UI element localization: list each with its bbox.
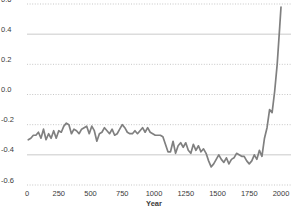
temperature-anomaly-chart: 0.60.40.20.0-0.2-0.4-0.60250500750100012… [0, 0, 292, 207]
x-tick-label-2: 500 [84, 189, 97, 198]
y-tick-label-6: -0.6 [1, 176, 14, 185]
x-axis-title: Year [146, 199, 162, 207]
gridlines [27, 4, 291, 185]
x-tick-label-6: 1500 [209, 189, 226, 198]
x-tick-label-0: 0 [25, 189, 29, 198]
y-tick-label-2: 0.2 [1, 55, 11, 64]
y-tick-label-3: 0.0 [1, 85, 11, 94]
chart-canvas: 0.60.40.20.0-0.2-0.4-0.60250500750100012… [0, 0, 292, 207]
y-tick-label-0: 0.6 [1, 0, 11, 4]
y-axis-tick-labels: 0.60.40.20.0-0.2-0.4-0.6 [1, 0, 14, 185]
x-tick-label-1: 250 [52, 189, 65, 198]
y-tick-label-5: -0.4 [1, 145, 14, 154]
temperature-series-line [28, 7, 281, 167]
y-tick-label-1: 0.4 [1, 25, 11, 34]
x-tick-label-5: 1250 [177, 189, 194, 198]
x-tick-label-3: 750 [116, 189, 129, 198]
x-tick-label-7: 1750 [241, 189, 258, 198]
y-tick-label-4: -0.2 [1, 115, 14, 124]
x-tick-label-4: 1000 [146, 189, 163, 198]
x-tick-label-8: 2000 [273, 189, 290, 198]
x-axis-tick-labels: 025050075010001250150017502000 [25, 189, 289, 198]
